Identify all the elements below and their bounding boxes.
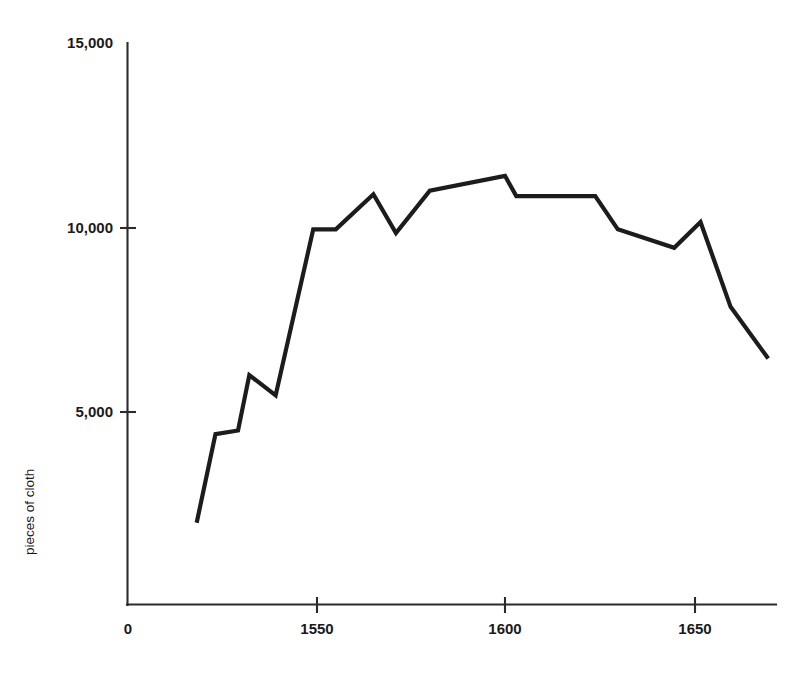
data-series-line [197, 176, 769, 523]
y-tick-label-15000: 15,000 [67, 34, 113, 51]
y-tick-label-10000: 10,000 [67, 219, 113, 236]
y-tick-label-5000: 5,000 [75, 403, 113, 420]
line-chart: 15,000 10,000 5,000 0 1550 1600 1650 pie… [0, 0, 807, 674]
x-tick-label-1650: 1650 [678, 620, 711, 637]
x-tick-label-1550: 1550 [300, 620, 333, 637]
chart-container: 15,000 10,000 5,000 0 1550 1600 1650 pie… [0, 0, 807, 674]
x-tick-label-1600: 1600 [488, 620, 521, 637]
x-tick-label-0: 0 [124, 620, 132, 637]
y-axis-title: pieces of cloth [22, 469, 37, 555]
